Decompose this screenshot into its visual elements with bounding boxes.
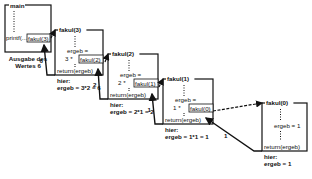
return-label-0: return(ergeb) — [57, 67, 93, 74]
frame-title-3: fakul(0) — [266, 99, 288, 106]
return-value-3: 1 — [224, 132, 228, 139]
main-frame: main printf(... fakul(3) Ausgabe des Wer… — [5, 2, 51, 69]
note-label-2: hier: — [165, 126, 178, 133]
return-value-0: 6 — [40, 57, 44, 64]
main-call-label: fakul(3) — [28, 35, 49, 42]
mult-0: 3 * — [65, 55, 73, 62]
note-label-3: hier: — [264, 153, 277, 160]
mult-1: 2 * — [118, 79, 126, 86]
return-label-3: return(ergeb) — [264, 143, 300, 150]
return-arrow-3 — [206, 118, 262, 151]
frame-title-0: fakul(3) — [59, 26, 81, 33]
note-label-1: hier: — [110, 101, 123, 108]
note-label-0: hier: — [57, 77, 70, 84]
call-label-2: fakul(0) — [190, 105, 211, 112]
call-arrow-3 — [213, 103, 262, 111]
main-title: main — [10, 2, 25, 9]
call-label-1: fakul(1) — [135, 80, 156, 87]
call-label-0: fakul(2) — [80, 56, 101, 63]
frame-title-2: fakul(1) — [167, 75, 189, 82]
note-3: ergeb = 1 — [264, 160, 292, 167]
return-label-1: return(ergeb) — [110, 91, 146, 98]
return-label-2: return(ergeb) — [165, 116, 201, 123]
printf-call: printf(... — [6, 34, 27, 41]
caption-line2: Wertes 6 — [15, 62, 41, 69]
return-value-1: 2 — [93, 81, 97, 88]
call-arrow-2 — [159, 79, 163, 87]
recursion-diagram: main printf(... fakul(3) Ausgabe des Wer… — [0, 0, 312, 179]
note-2: ergeb = 1*1 = 1 — [165, 133, 209, 140]
ergeb-label-2: ergeb = — [175, 96, 197, 103]
ergeb-label-3: ergeb = 1 — [274, 122, 301, 129]
return-arrow-0 — [44, 45, 55, 75]
ergeb-label-1: ergeb = — [120, 71, 142, 78]
return-value-2: 1 — [148, 106, 152, 113]
mult-2: 1 * — [173, 104, 181, 111]
frame-title-1: fakul(2) — [112, 50, 134, 57]
ergeb-label-0: ergeb = — [67, 47, 89, 54]
